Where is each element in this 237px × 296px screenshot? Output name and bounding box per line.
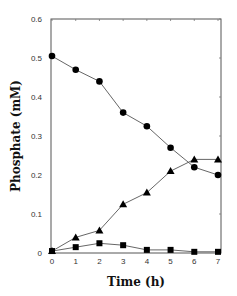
x-tick-label: 3 bbox=[121, 257, 126, 266]
y-tick-label: 0.1 bbox=[31, 210, 43, 219]
plot-area-border bbox=[51, 19, 221, 253]
circle-marker bbox=[191, 164, 198, 171]
triangle-marker bbox=[167, 167, 175, 174]
axis-ticks: 0123456700.10.20.30.40.50.6 bbox=[31, 15, 221, 266]
square-marker bbox=[49, 248, 55, 254]
x-tick-label: 4 bbox=[145, 257, 150, 266]
square-marker bbox=[168, 247, 174, 253]
y-tick-label: 0.3 bbox=[31, 132, 43, 141]
square-marker bbox=[215, 249, 221, 255]
plot-frame bbox=[51, 19, 221, 253]
square-marker bbox=[73, 244, 79, 250]
square-marker bbox=[144, 247, 150, 253]
circle-marker bbox=[72, 66, 79, 73]
phosphate-time-chart: 0123456700.10.20.30.40.50.6 Time (h) Pho… bbox=[0, 0, 237, 296]
circle-marker bbox=[167, 144, 174, 151]
y-axis-label: Phosphate (mM) bbox=[9, 80, 23, 192]
x-tick-label: 2 bbox=[97, 257, 102, 266]
series-triangles bbox=[48, 155, 222, 254]
x-tick-label: 7 bbox=[216, 257, 221, 266]
x-tick-label: 6 bbox=[192, 257, 197, 266]
triangle-marker bbox=[119, 200, 127, 207]
square-marker bbox=[120, 242, 126, 248]
y-tick-label: 0.4 bbox=[31, 93, 43, 102]
y-tick-label: 0.5 bbox=[31, 54, 43, 63]
triangle-marker bbox=[190, 155, 198, 162]
data-series bbox=[48, 53, 222, 255]
circle-marker bbox=[144, 123, 151, 130]
circle-marker bbox=[96, 78, 103, 85]
y-tick-label: 0.2 bbox=[31, 171, 43, 180]
circle-marker bbox=[49, 53, 56, 60]
x-tick-label: 5 bbox=[168, 257, 173, 266]
y-tick-label: 0 bbox=[38, 249, 43, 258]
x-tick-label: 1 bbox=[73, 257, 78, 266]
x-tick-label: 0 bbox=[50, 257, 55, 266]
y-tick-label: 0.6 bbox=[31, 15, 43, 24]
square-marker bbox=[191, 249, 197, 255]
series-line bbox=[52, 56, 218, 175]
circle-marker bbox=[120, 109, 127, 116]
circle-marker bbox=[215, 172, 222, 179]
x-axis-label: Time (h) bbox=[107, 275, 165, 289]
square-marker bbox=[96, 240, 102, 246]
